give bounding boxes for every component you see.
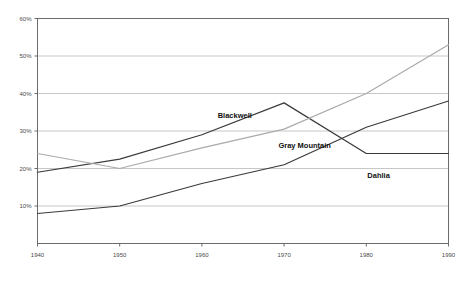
series-label-dahlia: Dahlia (367, 171, 390, 180)
y-tick-label-20: 20% (19, 166, 32, 172)
series-label-gray-mountain: Gray Mountain (278, 141, 331, 150)
chart-canvas: 60%50%40%30%20%10% 194019501960197019801… (0, 0, 470, 282)
x-tick-label-1990: 1990 (442, 252, 456, 258)
x-tick-label-1940: 1940 (31, 252, 45, 258)
y-tick-label-40: 40% (19, 91, 32, 97)
y-tick-label-60: 60% (19, 16, 32, 22)
y-tick-label-30: 30% (19, 128, 32, 134)
line-chart: 60%50%40%30%20%10% 194019501960197019801… (0, 0, 470, 282)
x-tick-label-1970: 1970 (277, 252, 291, 258)
series-label-blackwell: Blackwell (218, 111, 252, 120)
y-tick-label-50: 50% (19, 53, 32, 59)
x-tick-label-1960: 1960 (195, 252, 209, 258)
chart-background (0, 0, 470, 282)
x-tick-label-1980: 1980 (360, 252, 374, 258)
y-tick-label-10: 10% (19, 203, 32, 209)
x-tick-label-1950: 1950 (113, 252, 127, 258)
